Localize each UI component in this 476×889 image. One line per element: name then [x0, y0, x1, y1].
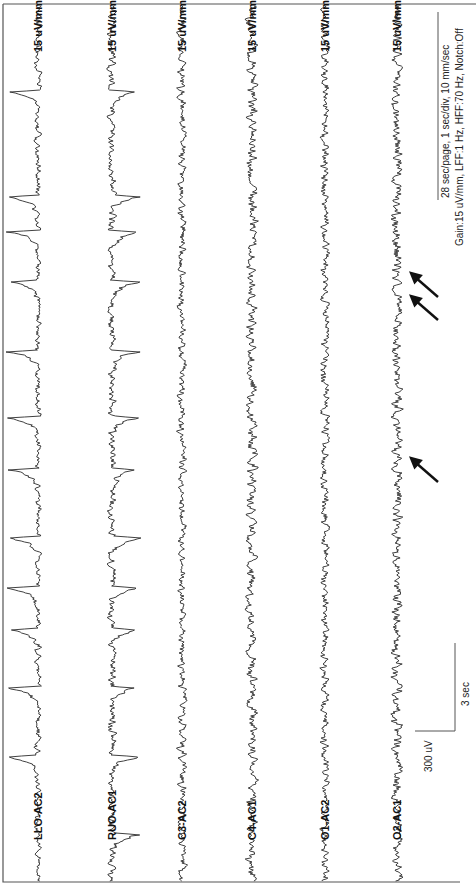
trace-o2-ac1 — [391, 6, 404, 881]
arrow-icon — [415, 277, 438, 297]
eeg-chart: LLO-AC2RUO-AC1C3-AC2C4-AC1O1-AC2O2-AC1 1… — [0, 0, 476, 889]
arrow-icon — [415, 462, 438, 482]
gain-label: 15 uV/mm — [32, 0, 44, 52]
gain-labels: 15 uV/mm15 uV/mm15 uV/mm15 uV/mm15 uV/mm… — [32, 0, 403, 52]
channel-traces — [6, 6, 403, 881]
recording-info-line2: Gain:15 uV/mm, LFF:1 Hz, HFF:70 Hz, Notc… — [454, 28, 465, 246]
gain-label: 15 uV/mm — [319, 0, 331, 52]
trace-c3-ac2 — [177, 6, 188, 881]
arrow-icon — [415, 300, 438, 320]
recording-info-line1: 28 sec/page, 1 sec/div, 10 mm/sec — [440, 45, 451, 198]
chart-frame — [3, 4, 476, 882]
scale-amplitude-label: 300 uV — [423, 740, 434, 772]
trace-c4-ac1 — [245, 6, 259, 881]
gain-label: 15 uV/mm — [106, 0, 118, 52]
annotation-arrows — [411, 273, 438, 482]
channel-label: C4-AC1 — [246, 800, 258, 840]
gain-label: 15 uV/mm — [391, 0, 403, 52]
trace-o1-ac2 — [320, 6, 330, 881]
recording-info: 28 sec/page, 1 sec/div, 10 mm/sec Gain:1… — [438, 12, 465, 246]
channel-label: LLO-AC2 — [32, 792, 44, 840]
gain-label: 15 uV/mm — [176, 0, 188, 52]
channel-label: O1-AC2 — [319, 800, 331, 840]
scale-bar: 300 uV 3 sec — [415, 643, 471, 772]
gain-label: 15 uV/mm — [246, 0, 258, 52]
trace-llo-ac2 — [6, 6, 42, 881]
channel-label: RUO-AC1 — [106, 790, 118, 840]
channel-labels: LLO-AC2RUO-AC1C3-AC2C4-AC1O1-AC2O2-AC1 — [32, 790, 403, 840]
scale-time-label: 3 sec — [460, 682, 471, 706]
channel-label: C3-AC2 — [176, 800, 188, 840]
channel-label: O2-AC1 — [391, 800, 403, 840]
trace-ruo-ac1 — [107, 6, 141, 881]
